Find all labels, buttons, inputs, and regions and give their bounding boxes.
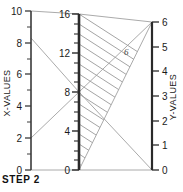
hatch-boundary-diagonal xyxy=(79,22,152,170)
right-tick-1: 1 xyxy=(162,140,168,151)
right-axis-title: Y-VALUES xyxy=(168,74,178,120)
left-tick-2: 2 xyxy=(16,133,22,144)
middle-tick-4: 4 xyxy=(64,126,70,137)
tie-lines xyxy=(31,11,152,170)
step-caption: STEP 2 xyxy=(2,174,40,185)
middle-tick-8: 8 xyxy=(64,87,70,98)
nomogram-svg: 10 8 6 4 2 0 X-VALUES xyxy=(0,0,183,192)
left-tick-6: 6 xyxy=(16,69,22,80)
right-tick-5: 5 xyxy=(162,42,168,53)
middle-axis: 16 12 8 4 0 xyxy=(59,9,79,176)
right-tick-6: 6 xyxy=(162,17,168,28)
left-tick-4: 4 xyxy=(16,101,22,112)
right-axis: 6 5 4 3 2 1 0 Y-VALUES xyxy=(152,17,178,176)
nomogram-figure: 10 8 6 4 2 0 X-VALUES xyxy=(0,0,183,192)
left-tick-8: 8 xyxy=(16,38,22,49)
left-tick-10: 10 xyxy=(11,6,23,17)
ascending-index-line xyxy=(31,22,152,138)
right-tick-0: 0 xyxy=(162,165,168,176)
middle-tick-12: 12 xyxy=(59,48,71,59)
hatch-region-annotation: 6 xyxy=(124,47,129,57)
middle-tick-0: 0 xyxy=(64,165,70,176)
top-tie-line xyxy=(31,11,152,22)
left-axis-title: X-VALUES xyxy=(2,69,12,116)
left-axis: 10 8 6 4 2 0 X-VALUES xyxy=(2,6,31,176)
middle-tick-16: 16 xyxy=(59,9,71,20)
